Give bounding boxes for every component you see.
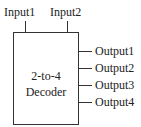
input1-label: Input1 — [4, 6, 35, 18]
output3-line — [79, 85, 92, 86]
decoder-label: 2-to-4 Decoder — [13, 68, 79, 100]
output2-line — [79, 68, 92, 69]
output1-line — [79, 51, 92, 52]
decoder-label-line2: Decoder — [13, 84, 79, 100]
input2-label: Input2 — [50, 6, 81, 18]
output3-label: Output3 — [95, 79, 134, 91]
input2-line — [67, 21, 68, 32]
output4-label: Output4 — [95, 96, 134, 108]
output1-label: Output1 — [95, 45, 134, 57]
decoder-label-line1: 2-to-4 — [13, 68, 79, 84]
output2-label: Output2 — [95, 62, 134, 74]
input1-line — [25, 21, 26, 32]
output4-line — [79, 102, 92, 103]
